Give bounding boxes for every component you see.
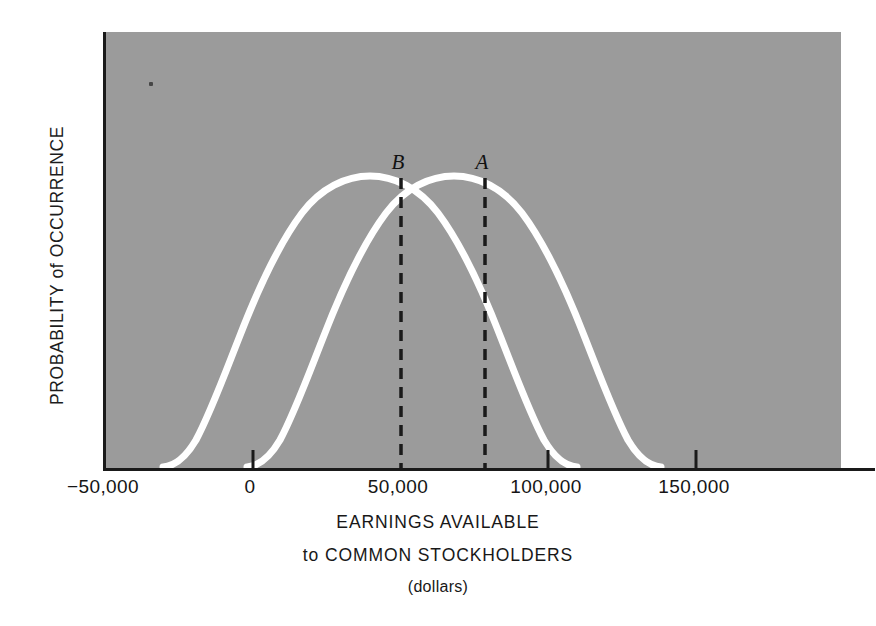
x-tick-label-100000: 100,000: [510, 476, 581, 498]
plot-area: [103, 32, 841, 468]
x-axis-title-line1: EARNINGS AVAILABLE: [0, 512, 876, 533]
curve-label-a: A: [476, 150, 489, 175]
x-tick-label-150000: 150,000: [658, 476, 729, 498]
curve-a: [247, 176, 661, 467]
curve-label-b: B: [392, 150, 405, 175]
x-axis-title-line3: (dollars): [0, 578, 876, 596]
y-axis-title-text: PROBABILITY of OCCURRENCE: [48, 125, 69, 404]
chart-figure: PROBABILITY of OCCURRENCE B A −50,000 0 …: [0, 0, 876, 626]
scan-artifact-speck: [149, 82, 153, 86]
curve-b: [163, 176, 577, 467]
plot-canvas: [106, 32, 841, 468]
x-tick-label-0: 0: [245, 476, 256, 498]
x-tick-label-50000: 50,000: [368, 476, 429, 498]
y-axis-title: PROBABILITY of OCCURRENCE: [41, 80, 75, 450]
x-axis-title-line2: to COMMON STOCKHOLDERS: [0, 545, 876, 566]
x-axis-line: [103, 468, 875, 471]
x-tick-label-neg50000: −50,000: [67, 476, 139, 498]
